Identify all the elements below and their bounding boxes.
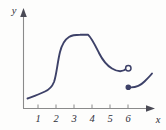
open-circle-endpoint (126, 66, 131, 71)
graph-canvas: 1 2 3 4 5 6 y x (0, 0, 166, 130)
x-tick-label-2: 2 (53, 113, 59, 124)
x-tick-label-4: 4 (89, 113, 95, 124)
x-axis-arrowhead (146, 105, 155, 112)
x-tick-label-6: 6 (125, 113, 131, 124)
y-axis-arrowhead (20, 8, 27, 17)
function-graph-figure: 1 2 3 4 5 6 y x (0, 0, 166, 130)
filled-dot-endpoint (126, 85, 130, 89)
function-branch-1-curve (28, 35, 127, 99)
x-tick-label-5: 5 (107, 113, 112, 124)
x-tick-label-3: 3 (70, 113, 76, 124)
function-branch-2-curve (129, 74, 152, 88)
x-tick-label-1: 1 (35, 113, 40, 124)
x-axis-label: x (155, 114, 161, 125)
y-axis-label: y (11, 5, 17, 16)
